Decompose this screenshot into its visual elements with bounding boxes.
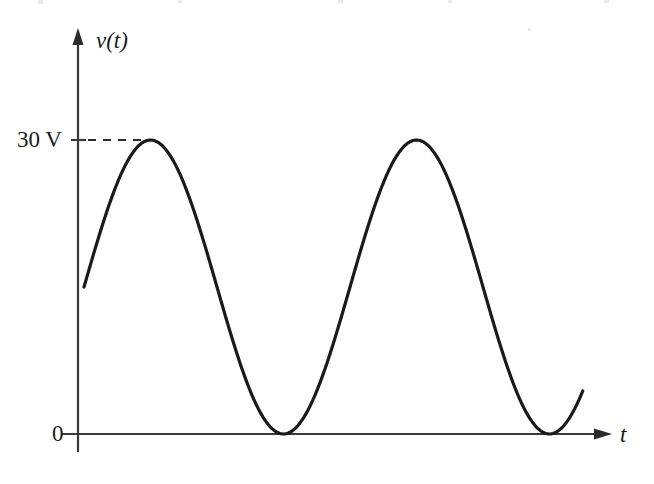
scan-artifact [528,28,531,31]
scan-artifact [604,0,609,3]
scan-artifact [338,0,343,3]
voltage-waveform-curve [84,140,583,434]
scan-artifact [38,0,43,4]
y-tick-label-30v: 30 V [17,128,62,151]
figure-canvas: v(t) t 30 V 0 [0,0,654,484]
scan-artifact [178,0,182,3]
y-axis-label: v(t) [96,29,128,52]
y-axis-arrowhead [73,28,84,45]
scan-artifact [448,0,452,3]
y-tick-label-zero: 0 [52,422,64,445]
x-axis-arrowhead [594,429,612,440]
waveform-plot [0,0,654,484]
x-axis-label: t [620,423,626,446]
